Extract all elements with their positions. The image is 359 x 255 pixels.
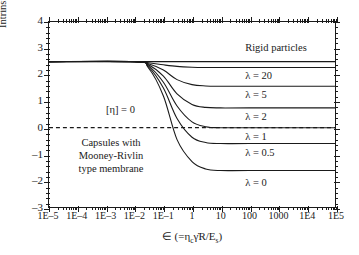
x-tick-minor	[288, 19, 289, 23]
y-tick-minor	[46, 188, 50, 189]
y-tick-major	[334, 156, 340, 157]
x-tick-minor	[115, 19, 116, 23]
x-tick-minor	[158, 19, 159, 23]
x-tick-minor	[149, 19, 150, 23]
x-tick-minor	[178, 19, 179, 23]
x-tick-minor	[100, 19, 101, 23]
x-tick-major	[308, 17, 309, 23]
capsule-note-line-3: type membrane	[56, 162, 166, 175]
x-tick-minor	[336, 19, 337, 23]
y-tick-label: 1	[17, 94, 43, 106]
y-tick-major	[44, 129, 50, 130]
y-tick-minor	[46, 140, 50, 141]
y-tick-major	[44, 182, 50, 183]
x-tick-minor	[300, 19, 301, 23]
x-axis-label-r: R/E	[198, 230, 215, 242]
y-tick-minor	[46, 166, 50, 167]
x-tick-minor	[326, 19, 327, 23]
x-tick-major	[107, 17, 108, 23]
zero-annotation: [η] = 0	[106, 104, 135, 115]
x-tick-minor	[63, 19, 64, 23]
x-tick-label: 1E5	[316, 210, 356, 221]
capsule-note-line-2: Mooney-Rivlin	[56, 149, 166, 162]
x-tick-major	[49, 17, 50, 23]
y-tick-minor	[335, 65, 339, 66]
x-tick-minor	[192, 19, 193, 23]
y-tick-minor	[46, 193, 50, 194]
y-tick-minor	[46, 97, 50, 98]
y-tick-label: 2	[17, 67, 43, 79]
y-tick-major	[44, 156, 50, 157]
series-curve-lambda-20	[49, 62, 335, 68]
x-axis-label-eps: ∈	[162, 230, 172, 242]
y-tick-minor	[335, 172, 339, 173]
x-tick-minor	[230, 19, 231, 23]
x-tick-minor	[331, 19, 332, 23]
y-tick-label: 3	[17, 41, 43, 53]
y-tick-minor	[335, 59, 339, 60]
x-tick-major	[164, 17, 165, 23]
x-tick-minor	[307, 19, 308, 23]
x-tick-minor	[259, 19, 260, 23]
y-tick-minor	[335, 145, 339, 146]
y-tick-minor	[335, 118, 339, 119]
y-tick-minor	[46, 43, 50, 44]
y-tick-minor	[335, 188, 339, 189]
y-tick-major	[44, 102, 50, 103]
capsule-note: Capsules with Mooney-Rivlin type membran…	[56, 136, 166, 175]
y-tick-major	[334, 182, 340, 183]
x-tick-minor	[144, 19, 145, 23]
y-tick-minor	[335, 124, 339, 125]
x-tick-minor	[98, 19, 99, 23]
y-tick-minor	[46, 118, 50, 119]
x-tick-major	[222, 17, 223, 23]
x-tick-minor	[156, 19, 157, 23]
y-tick-major	[334, 129, 340, 130]
y-tick-minor	[46, 124, 50, 125]
y-tick-minor	[46, 204, 50, 205]
x-tick-minor	[207, 19, 208, 23]
series-label-lambda-5: λ = 5	[243, 89, 269, 100]
y-tick-label: –1	[17, 148, 43, 160]
y-tick-minor	[335, 70, 339, 71]
x-tick-minor	[273, 19, 274, 23]
y-tick-minor	[46, 107, 50, 108]
x-tick-minor	[134, 19, 135, 23]
x-tick-minor	[58, 19, 59, 23]
y-tick-minor	[335, 204, 339, 205]
x-tick-minor	[268, 19, 269, 23]
x-tick-major	[279, 17, 280, 23]
y-tick-minor	[335, 140, 339, 141]
x-tick-minor	[264, 19, 265, 23]
y-tick-minor	[335, 38, 339, 39]
y-tick-minor	[335, 107, 339, 108]
x-tick-minor	[293, 19, 294, 23]
y-tick-minor	[46, 150, 50, 151]
x-tick-minor	[129, 19, 130, 23]
y-tick-minor	[46, 86, 50, 87]
y-tick-minor	[335, 198, 339, 199]
series-curve-lambda-0.5	[49, 61, 335, 143]
series-curve-lambda-1	[49, 61, 335, 127]
x-tick-minor	[215, 19, 216, 23]
x-tick-minor	[153, 19, 154, 23]
y-tick-minor	[46, 161, 50, 162]
y-tick-minor	[335, 193, 339, 194]
series-curve-lambda-5	[49, 61, 335, 86]
y-tick-minor	[335, 33, 339, 34]
x-tick-minor	[71, 19, 72, 23]
series-label-lambda-0.5: λ = 0.5	[243, 147, 276, 158]
x-tick-minor	[120, 19, 121, 23]
x-tick-major	[78, 17, 79, 23]
y-tick-minor	[46, 172, 50, 173]
y-tick-major	[334, 102, 340, 103]
x-tick-minor	[124, 19, 125, 23]
y-tick-minor	[46, 38, 50, 39]
series-label-lambda-2: λ = 2	[243, 111, 269, 122]
x-axis-label-open: (=η	[172, 230, 190, 242]
x-tick-minor	[127, 19, 128, 23]
x-tick-minor	[210, 19, 211, 23]
y-tick-major	[44, 75, 50, 76]
x-tick-minor	[187, 19, 188, 23]
y-tick-minor	[335, 81, 339, 82]
